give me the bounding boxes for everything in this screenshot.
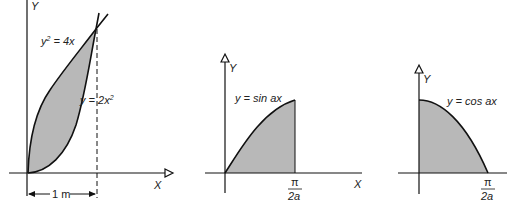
fig2-tick-numerator: π — [291, 176, 299, 188]
x-axis-arrow-icon — [165, 169, 173, 177]
dimension-arrow-right-icon — [89, 191, 96, 197]
fig1-y-axis-label: Y — [31, 0, 39, 12]
fig3-tick-denominator: 2a — [480, 190, 493, 202]
y-axis-arrow-icon — [221, 54, 229, 62]
dimension-label: 1 m — [52, 188, 70, 200]
cosine-curve-label: y = cos ax — [446, 95, 497, 107]
diagram-canvas: Y X y2 = 4x y = 2x2 1 m Y X y = sin ax π… — [0, 0, 507, 207]
y-axis-arrow-icon — [415, 65, 423, 73]
figure-sine — [205, 54, 362, 193]
sine-curve-label: y = sin ax — [234, 92, 282, 104]
curve1-label: y2 = 4x — [40, 35, 75, 47]
shaded-area-sine — [225, 100, 295, 173]
fig2-tick-denominator: 2a — [287, 190, 300, 202]
figure-cosine — [398, 65, 507, 194]
fig3-y-axis-label: Y — [423, 73, 431, 85]
curve2-label: y = 2x2 — [79, 94, 114, 106]
fig3-tick-numerator: π — [484, 176, 492, 188]
dimension-arrow-left-icon — [28, 191, 35, 197]
fig1-x-axis-label: X — [153, 179, 162, 191]
shaded-area-cosine — [419, 100, 488, 173]
fig2-y-axis-label: Y — [229, 62, 237, 74]
fig2-x-axis-label: X — [353, 178, 362, 190]
